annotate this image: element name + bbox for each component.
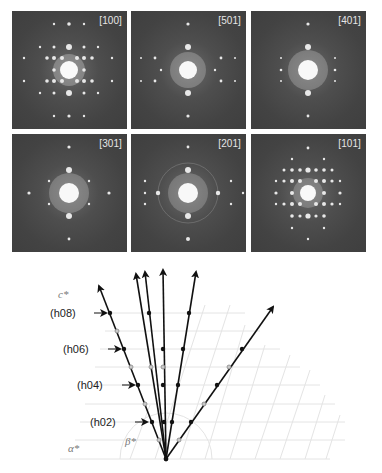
zone-axis-label: [101] (338, 138, 361, 149)
row-label-h08: (h08) (50, 307, 106, 319)
zone-axis-label: [401] (338, 15, 361, 26)
diffraction-spots (12, 11, 127, 129)
zone-axis-label: [301] (99, 138, 122, 149)
diffraction-panel-401: [401] (251, 11, 366, 129)
diffraction-spots (131, 134, 246, 252)
zone-axis-label: [100] (99, 15, 122, 26)
lattice-grid (60, 305, 345, 459)
origin-dot (164, 457, 169, 462)
diffraction-spots (251, 11, 366, 129)
alpha-star-label: α* (68, 442, 80, 454)
diffraction-panel-100: [100] (12, 11, 127, 129)
diffraction-panel-101: [101] (251, 134, 366, 252)
diffraction-panel-201: [201] (131, 134, 246, 252)
reciprocal-lattice-diagram: (h08) (h06) (h04) (h02) c* α* β* (0, 255, 382, 473)
arrow-6 (166, 307, 273, 459)
zone-axis-label: [501] (218, 15, 241, 26)
c-star-label: c* (58, 288, 69, 300)
diffraction-spots (12, 134, 127, 252)
svg-text:(h06): (h06) (63, 343, 89, 355)
svg-text:(h02): (h02) (90, 416, 116, 428)
zone-axis-label: [201] (218, 138, 241, 149)
diffraction-spots (251, 134, 366, 252)
beta-star-label: β* (124, 435, 136, 447)
diffraction-panel-301: [301] (12, 134, 127, 252)
svg-text:(h04): (h04) (77, 379, 103, 391)
row-label-h06: (h06) (63, 343, 120, 355)
arrow-5 (166, 272, 196, 459)
diffraction-spots (131, 11, 246, 129)
diffraction-panel-501: [501] (131, 11, 246, 129)
svg-text:(h08): (h08) (50, 307, 76, 319)
